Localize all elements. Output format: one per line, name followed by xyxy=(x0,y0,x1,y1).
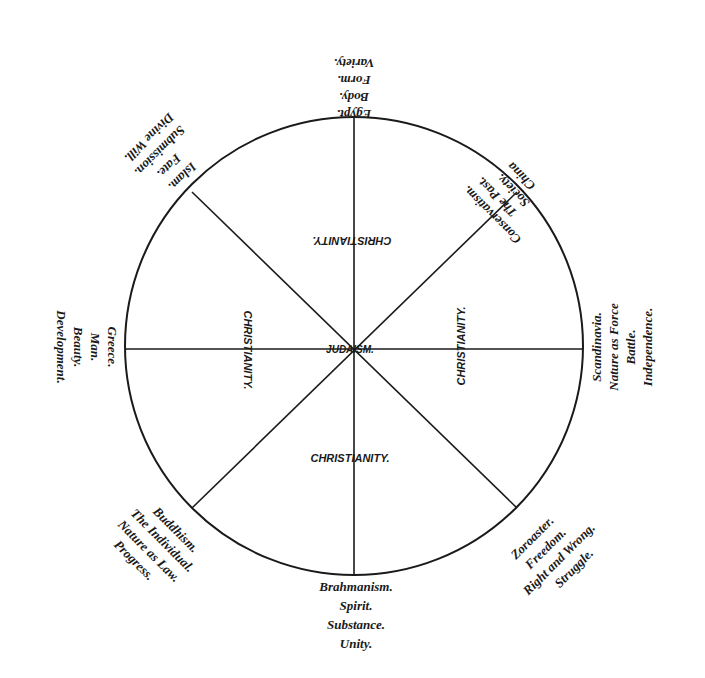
brahmanism-line-1: Brahmanism. xyxy=(318,579,392,594)
group-scandinavia: Scandinavia. Nature as Force Battle. Ind… xyxy=(589,303,655,392)
egypt-line-3: Form. xyxy=(337,73,372,88)
group-brahmanism: Brahmanism. Spirit. Substance. Unity. xyxy=(318,579,392,651)
scandinavia-line-3: Battle. xyxy=(623,329,638,365)
brahmanism-line-4: Unity. xyxy=(340,636,372,651)
egypt-line-4: Variety. xyxy=(334,56,374,71)
greece-line-1: Greece. xyxy=(105,327,120,368)
label-christianity-right: CHRISTIANITY. xyxy=(455,306,467,385)
brahmanism-line-3: Substance. xyxy=(327,617,385,632)
greece-line-4: Development. xyxy=(54,309,69,383)
scandinavia-line-4: Independence. xyxy=(640,308,655,387)
group-islam: Islam. Fate. Submission. Divine Will. xyxy=(120,109,214,203)
group-greece: Greece. Man. Beauty. Development. xyxy=(54,309,120,383)
group-egypt: Egypt. Body. Form. Variety. xyxy=(334,56,374,122)
brahmanism-line-2: Spirit. xyxy=(340,598,373,613)
egypt-line-2: Body. xyxy=(339,90,370,105)
group-zoroaster: Zoroaster. Freedom. Right and Wrong. Str… xyxy=(495,496,610,611)
religions-circle-diagram: JUDAISM. CHRISTIANITY. CHRISTIANITY. CHR… xyxy=(0,0,705,678)
greece-line-3: Beauty. xyxy=(71,326,86,367)
label-christianity-left: CHRISTIANITY. xyxy=(242,310,254,389)
label-judaism: JUDAISM. xyxy=(326,344,374,355)
egypt-line-1: Egypt. xyxy=(337,107,372,122)
label-christianity-bottom: CHRISTIANITY. xyxy=(310,452,389,464)
label-christianity-top: CHRISTIANITY. xyxy=(312,235,391,247)
scandinavia-line-1: Scandinavia. xyxy=(589,312,604,382)
greece-line-2: Man. xyxy=(88,332,103,362)
scandinavia-line-2: Nature as Force xyxy=(606,303,621,392)
